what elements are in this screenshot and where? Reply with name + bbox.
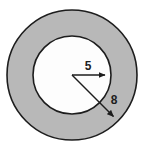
annulus-diagram-svg: 5 8 xyxy=(0,0,150,149)
annulus-figure: 5 8 xyxy=(0,0,150,149)
inner-radius-label: 5 xyxy=(85,59,92,73)
outer-radius-label: 8 xyxy=(111,93,118,107)
